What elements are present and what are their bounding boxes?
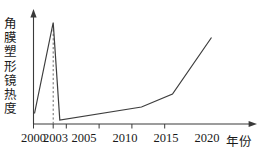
- y-axis-arrow-icon: [30, 9, 36, 17]
- x-axis-arrow-icon: [249, 121, 257, 127]
- x-axis-ticks: [34, 124, 165, 129]
- axes-group: [30, 9, 257, 127]
- x-tick-label-2005: 2005: [72, 131, 97, 146]
- x-axis-title: 年份: [226, 131, 252, 150]
- x-tick-label-2003: 2003: [43, 131, 68, 146]
- x-tick-label-2015: 2015: [154, 131, 179, 146]
- x-tick-label-2010: 2010: [113, 131, 138, 146]
- x-tick-label-2020: 2020: [195, 131, 220, 146]
- data-series-line: [35, 23, 212, 121]
- chart-container: 角 膜 塑 形 镜 热 度 2000 2003 2005 2010 2015 2…: [0, 0, 263, 158]
